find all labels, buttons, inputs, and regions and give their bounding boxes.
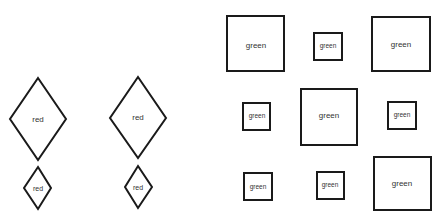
square-label: green xyxy=(391,40,411,49)
square-label: green xyxy=(394,111,411,119)
square-shape: green xyxy=(317,172,344,199)
square-label: green xyxy=(250,183,267,191)
square-shape: green xyxy=(243,103,270,130)
square-label: green xyxy=(320,42,337,50)
square-shape: green xyxy=(372,17,430,71)
square-shape: green xyxy=(244,173,272,200)
square-label: green xyxy=(392,179,412,188)
square-label: green xyxy=(319,111,339,120)
square-shape: green xyxy=(374,157,431,210)
square-shape: green xyxy=(388,102,416,129)
square-shape: green xyxy=(227,16,284,71)
square-label: green xyxy=(249,112,266,120)
diamond-shape: red xyxy=(110,77,166,158)
diamond-label: red xyxy=(32,115,44,124)
diamond-shape: red xyxy=(10,78,66,160)
shapes-canvas: red red red red green green green green … xyxy=(0,0,443,218)
diamond-shape: red xyxy=(125,166,152,208)
diamond-label: red xyxy=(33,185,43,192)
diamond-shape: red xyxy=(24,167,51,209)
square-shape: green xyxy=(314,33,342,60)
square-shape: green xyxy=(301,89,357,145)
diamond-label: red xyxy=(133,184,143,191)
square-label: green xyxy=(322,181,339,189)
diamond-label: red xyxy=(132,113,144,122)
square-label: green xyxy=(246,41,266,50)
